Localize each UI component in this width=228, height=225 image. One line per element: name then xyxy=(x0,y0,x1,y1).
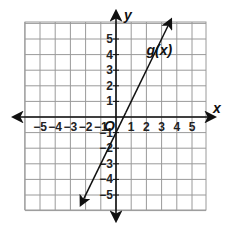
y-tick-label: 4 xyxy=(106,48,113,62)
x-tick-label: −3 xyxy=(64,120,78,134)
origin-label: O xyxy=(104,118,115,134)
axes xyxy=(14,12,214,220)
y-tick-label: −4 xyxy=(99,172,113,186)
x-tick-label: −5 xyxy=(33,120,47,134)
y-tick-label: 2 xyxy=(106,79,113,93)
y-tick-label: 5 xyxy=(106,32,113,46)
x-axis-label: x xyxy=(212,100,222,116)
x-tick-label: 3 xyxy=(158,120,165,134)
x-tick-label: 2 xyxy=(143,120,150,134)
x-tick-label: 4 xyxy=(173,120,180,134)
x-tick-label: 1 xyxy=(128,120,135,134)
coordinate-plane: −5−4−3−2−112345−5−4−3−2−112345 x y O g(x… xyxy=(0,0,228,225)
series-label-g: g(x) xyxy=(145,42,172,58)
y-tick-label: 3 xyxy=(106,63,113,77)
y-tick-label: −5 xyxy=(99,188,113,202)
x-tick-label: −2 xyxy=(79,120,93,134)
x-tick-label: −4 xyxy=(48,120,62,134)
y-tick-label: 1 xyxy=(106,94,113,108)
x-tick-label: 5 xyxy=(189,120,196,134)
y-axis-label: y xyxy=(123,7,133,23)
